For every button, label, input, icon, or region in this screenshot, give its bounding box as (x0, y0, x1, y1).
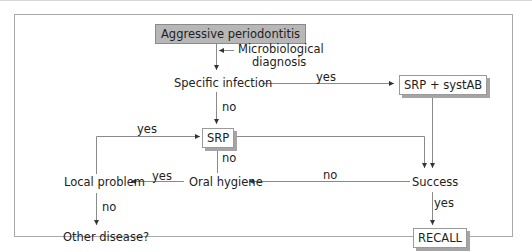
edge-local-yes (97, 137, 201, 175)
label-success-no: no (323, 168, 337, 182)
node-oral-hygiene: Oral hygiene (189, 175, 263, 189)
label-success-yes: yes (434, 196, 454, 210)
label-oral-yes: yes (152, 169, 172, 183)
node-microbiological-line1: Microbiological (238, 42, 324, 56)
label-oral-no: no (222, 151, 236, 165)
label-local-yes-to-srp: yes (137, 122, 157, 136)
label-local-no: no (102, 200, 116, 214)
node-srp-systab: SRP + systAB (399, 75, 487, 95)
node-microbiological-line2: diagnosis (252, 55, 306, 69)
node-local-problem: Local problem (64, 175, 145, 189)
node-specific-infection: Specific infection (174, 76, 272, 90)
node-success: Success (412, 175, 458, 189)
node-recall: RECALL (413, 228, 467, 248)
node-aggressive-periodontitis: Aggressive periodontitis (155, 24, 306, 44)
node-srp: SRP (202, 128, 234, 148)
label-specific-yes: yes (316, 70, 336, 84)
node-other-disease: Other disease? (63, 230, 149, 244)
edge-srp-to-success (230, 137, 425, 169)
label-specific-no: no (222, 100, 236, 114)
